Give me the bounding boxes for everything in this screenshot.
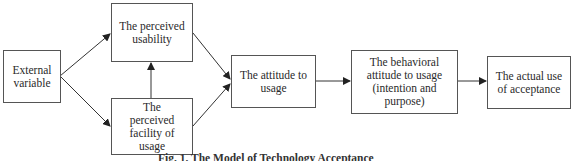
node-label: The attitude to usage xyxy=(239,69,309,95)
node-perceived-facility: The perceived facility of usage xyxy=(111,98,193,155)
edge-external-facility xyxy=(60,76,110,126)
node-perceived-usability: The perceived usability xyxy=(111,3,193,62)
node-label: The actual use of acceptance xyxy=(494,70,564,96)
node-label: The perceived facility of usage xyxy=(121,101,183,153)
node-label: The perceived usability xyxy=(119,20,185,46)
node-label: The behavioral attitude to usage (intent… xyxy=(359,56,451,108)
edge-usability-attitude xyxy=(193,33,230,79)
edge-facility-attitude xyxy=(193,84,230,126)
node-actual-use: The actual use of acceptance xyxy=(487,56,571,109)
figure-caption: Fig. 1. The Model of Technology Acceptan… xyxy=(158,152,374,161)
edge-external-usability xyxy=(60,34,110,76)
node-external-variable: External variable xyxy=(3,50,61,103)
node-attitude-to-usage: The attitude to usage xyxy=(231,55,316,108)
node-behavioral-attitude: The behavioral attitude to usage (intent… xyxy=(351,50,458,114)
node-label: External variable xyxy=(10,64,54,90)
